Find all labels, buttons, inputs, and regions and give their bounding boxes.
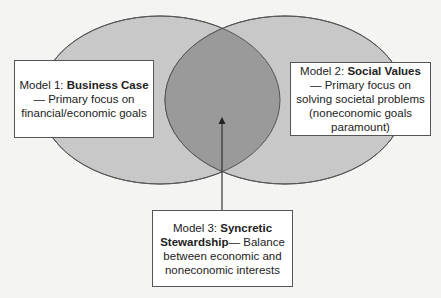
- model-1-prefix: Model 1:: [19, 79, 66, 91]
- model-2-box: Model 2: Social Values— Primary focus on…: [290, 62, 431, 136]
- model-1-name: Business Case: [67, 79, 149, 91]
- model-3-box: Model 3: Syncretic Stewardship— Balance …: [152, 210, 293, 287]
- model-2-dash: —: [310, 79, 322, 91]
- model-1-box: Model 1: Business Case— Primary focus on…: [14, 60, 154, 138]
- model-2-name: Social Values: [347, 65, 421, 77]
- model-3-prefix: Model 3:: [173, 222, 220, 234]
- model-1-dash: —: [34, 93, 46, 105]
- model-3-dash: —: [229, 236, 244, 248]
- model-2-prefix: Model 2:: [300, 65, 347, 77]
